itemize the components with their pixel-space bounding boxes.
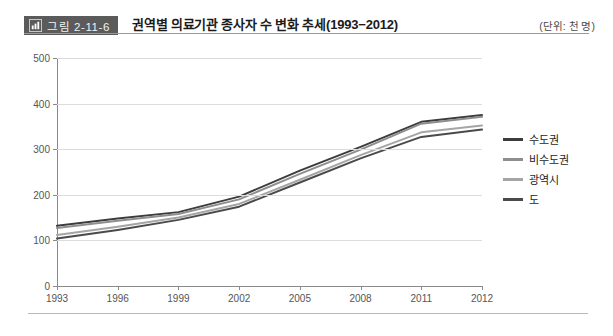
x-axis-label-2012: 2012 xyxy=(471,293,493,304)
y-axis-label-0: 0 xyxy=(44,281,50,292)
gridline-0 xyxy=(57,286,482,287)
x-axis-label-1996: 1996 xyxy=(107,293,129,304)
legend-item-비수도권[interactable]: 비수도권 xyxy=(503,151,607,167)
legend-item-광역시[interactable]: 광역시 xyxy=(503,171,607,187)
gridline-100 xyxy=(57,240,482,241)
gridline-200 xyxy=(57,195,482,196)
page-title: 권역별 의료기관 종사자 수 변화 추세(1993−2012) xyxy=(132,14,398,33)
figure-page: 그림 2-11-6 권역별 의료기관 종사자 수 변화 추세(1993−2012… xyxy=(0,0,613,336)
x-axis-label-2011: 2011 xyxy=(411,293,433,304)
legend-swatch-icon xyxy=(503,198,523,201)
x-tick-1993 xyxy=(57,286,58,290)
y-tick-300 xyxy=(53,149,57,150)
legend-label: 광역시 xyxy=(529,171,559,187)
gridline-300 xyxy=(57,149,482,150)
gridline-500 xyxy=(57,58,482,59)
plot-region: 0100200300400500199319961999200220052008… xyxy=(57,58,482,286)
legend-label: 수도권 xyxy=(529,131,559,147)
x-tick-2005 xyxy=(300,286,301,290)
gridline-400 xyxy=(57,104,482,105)
x-tick-1999 xyxy=(178,286,179,290)
legend-item-도[interactable]: 도 xyxy=(503,191,607,207)
x-axis-label-2008: 2008 xyxy=(349,293,371,304)
figure-number-label: 그림 2-11-6 xyxy=(47,18,110,34)
chart-legend: 수도권비수도권광역시도 xyxy=(503,131,607,211)
x-tick-2011 xyxy=(421,286,422,290)
footer-divider xyxy=(28,313,588,314)
x-axis-label-2005: 2005 xyxy=(289,293,311,304)
x-tick-2002 xyxy=(239,286,240,290)
legend-label: 비수도권 xyxy=(529,151,569,167)
x-axis-label-2002: 2002 xyxy=(228,293,250,304)
x-axis-label-1993: 1993 xyxy=(46,293,68,304)
legend-swatch-icon xyxy=(503,178,523,181)
x-tick-1996 xyxy=(118,286,119,290)
series-line-수도권 xyxy=(57,115,482,226)
x-axis-label-1999: 1999 xyxy=(167,293,189,304)
legend-label: 도 xyxy=(529,191,539,207)
y-tick-100 xyxy=(53,240,57,241)
y-axis-label-400: 400 xyxy=(33,98,50,109)
bar-chart-icon xyxy=(29,19,42,32)
y-tick-200 xyxy=(53,195,57,196)
y-axis-label-200: 200 xyxy=(33,189,50,200)
legend-item-수도권[interactable]: 수도권 xyxy=(503,131,607,147)
y-tick-400 xyxy=(53,104,57,105)
legend-swatch-icon xyxy=(503,138,523,141)
header-divider xyxy=(24,33,589,34)
x-tick-2008 xyxy=(361,286,362,290)
y-axis-label-500: 500 xyxy=(33,53,50,64)
y-axis-label-300: 300 xyxy=(33,144,50,155)
y-tick-500 xyxy=(53,58,57,59)
legend-swatch-icon xyxy=(503,158,523,161)
x-tick-2012 xyxy=(482,286,483,290)
figure-header: 그림 2-11-6 권역별 의료기관 종사자 수 변화 추세(1993−2012… xyxy=(0,12,613,46)
series-lines xyxy=(57,58,482,286)
y-axis-label-100: 100 xyxy=(33,235,50,246)
unit-note: (단위: 천 명) xyxy=(539,18,595,33)
